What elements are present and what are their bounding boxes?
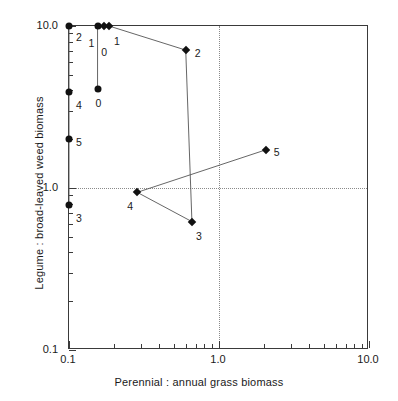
data-point-label: 4 — [76, 99, 82, 111]
data-point-circle — [94, 85, 101, 92]
x-tick-label: 0.1 — [60, 353, 75, 365]
data-point-label: 0 — [101, 46, 107, 58]
data-point-label: 2 — [195, 47, 201, 59]
data-point-label: 1 — [114, 35, 120, 47]
data-point-label: 3 — [76, 212, 82, 224]
data-point-label: 0 — [96, 97, 102, 109]
y-tick-label: 10.0 — [22, 19, 58, 31]
x-tick-label: 1.0 — [210, 353, 225, 365]
data-point-label: 1 — [89, 37, 95, 49]
data-point-label: 2 — [76, 31, 82, 43]
data-point-label: 5 — [274, 146, 280, 158]
data-point-label: 5 — [76, 136, 82, 148]
data-point-circle — [66, 23, 73, 30]
x-axis-title: Perennial : annual grass biomass — [0, 376, 398, 388]
x-tick-label: 10.0 — [357, 353, 378, 365]
data-point-circle — [66, 136, 73, 143]
data-point-label: 4 — [127, 200, 133, 212]
y-axis-title: Legume : broad-leaved weed biomass — [33, 68, 45, 318]
y-tick — [69, 350, 76, 351]
data-point-label: 3 — [196, 230, 202, 242]
data-point-circle — [66, 89, 73, 96]
y-tick-label: 0.1 — [22, 343, 58, 355]
data-point-circle — [66, 201, 73, 208]
x-tick — [369, 341, 370, 348]
chart-root: 245310123450 0.11.010.0 0.11.010.0 Peren… — [0, 0, 398, 401]
plot-area: 245310123450 — [68, 25, 368, 349]
data-series-layer: 245310123450 — [69, 26, 367, 348]
series-connector-lines — [69, 26, 369, 350]
